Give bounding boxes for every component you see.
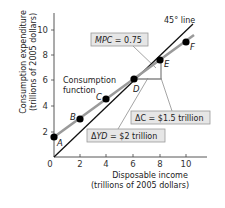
y-tick-label: 8 bbox=[43, 50, 48, 60]
delta-yd-label: ΔYD = $2 trillion bbox=[91, 132, 157, 141]
y-tick-label: 2 bbox=[43, 127, 48, 137]
x-tick-label: 0 bbox=[47, 159, 52, 169]
45-line-label: 45° line bbox=[164, 16, 195, 25]
point-label-d: D bbox=[133, 84, 140, 94]
point-label-e: E bbox=[164, 59, 170, 69]
x-tick-label: 6 bbox=[130, 159, 135, 169]
point-label-a: A bbox=[56, 138, 63, 148]
x-tick-label: 2 bbox=[77, 159, 82, 169]
y-tick-label: 4 bbox=[43, 101, 48, 111]
point-d bbox=[130, 75, 137, 82]
dc-leader bbox=[161, 78, 172, 111]
x-tick-label: 4 bbox=[103, 159, 108, 169]
point-f bbox=[182, 38, 189, 45]
x-tick-label: 8 bbox=[157, 159, 162, 169]
x-tick-label: 10 bbox=[181, 159, 192, 169]
x-axis-title: Disposable income bbox=[112, 171, 188, 180]
point-b bbox=[76, 115, 83, 122]
delta-c-label: ΔC = $1.5 trillion bbox=[135, 114, 203, 123]
y-axis-units: (trillions of 2005 dollars) bbox=[29, 13, 38, 111]
point-label-b: B bbox=[70, 112, 76, 122]
mpc-label: MPC = 0.75 bbox=[95, 36, 142, 45]
point-label-c: C bbox=[96, 92, 102, 102]
point-label-f: F bbox=[190, 42, 195, 52]
x-axis-units: (trillions of 2005 dollars) bbox=[91, 181, 189, 190]
point-e bbox=[156, 56, 163, 63]
y-axis-title: Consumption expenditure bbox=[19, 10, 28, 114]
consumption-function-label: Consumption bbox=[63, 76, 116, 85]
consumption-function-label-2: function bbox=[63, 86, 96, 95]
point-c bbox=[102, 95, 109, 102]
consumption-function-chart: 2 4 6 8 10 0 2 4 6 8 10 Disposable incom… bbox=[0, 0, 225, 208]
y-tick-label: 6 bbox=[43, 75, 48, 85]
y-tick-label: 10 bbox=[37, 25, 48, 35]
